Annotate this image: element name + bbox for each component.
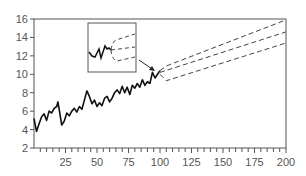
x-tick-label: 175 — [245, 156, 263, 168]
x-tick-label: 125 — [182, 156, 200, 168]
series-layer — [34, 20, 286, 131]
pointer-arrow — [139, 60, 155, 71]
series-observed — [34, 71, 160, 132]
y-tick-label: 16 — [16, 13, 28, 25]
series-forecast-mean — [160, 32, 286, 73]
x-tick-label: 200 — [277, 156, 295, 168]
x-tick-label: 100 — [151, 156, 169, 168]
y-tick-label: 12 — [16, 50, 28, 62]
inset — [88, 23, 136, 72]
x-tick-label: 75 — [122, 156, 134, 168]
x-tick-label: 50 — [91, 156, 103, 168]
y-axis: 246810121416 — [16, 13, 34, 154]
plot-frame — [34, 19, 286, 148]
y-tick-label: 14 — [16, 31, 28, 43]
y-tick-label: 10 — [16, 68, 28, 80]
x-axis: 255075100125150175200 — [40, 148, 295, 168]
y-tick-label: 2 — [22, 142, 28, 154]
chart: 246810121416 255075100125150175200 — [0, 0, 306, 176]
y-tick-label: 6 — [22, 105, 28, 117]
series-forecast-lower — [160, 43, 286, 81]
y-tick-label: 4 — [22, 124, 28, 136]
y-tick-label: 8 — [22, 87, 28, 99]
x-tick-label: 150 — [214, 156, 232, 168]
x-tick-label: 25 — [59, 156, 71, 168]
